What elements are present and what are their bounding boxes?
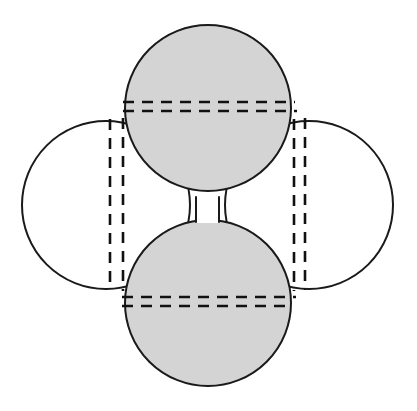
- bottom-circle: [125, 220, 291, 386]
- four-circle-diagram: [0, 0, 417, 411]
- figure-root: [0, 0, 417, 411]
- center-gap-layer: [196, 196, 219, 223]
- center-white-gap: [196, 196, 219, 223]
- top-circle: [125, 25, 291, 191]
